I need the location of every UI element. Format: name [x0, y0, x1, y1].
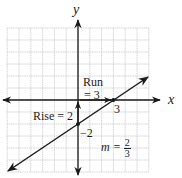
y-axis-label: y — [73, 3, 79, 17]
rise-label: Rise = 2 — [33, 110, 73, 122]
y-intercept-label: −2 — [80, 127, 93, 139]
x-intercept-label: 3 — [114, 103, 120, 115]
x-axis-label: x — [168, 93, 174, 107]
run-label-line1: Run — [83, 76, 103, 88]
slope-denominator: 3 — [125, 149, 130, 159]
slope-label: m = 2 3 — [101, 138, 131, 159]
run-label-line2: = 3 — [84, 89, 100, 101]
slope-fraction: 2 3 — [124, 138, 131, 159]
slope-prefix: m = — [101, 140, 121, 154]
